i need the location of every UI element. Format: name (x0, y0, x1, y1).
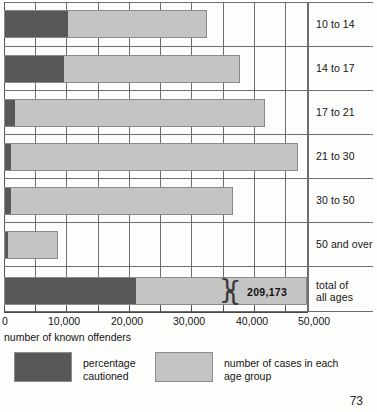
legend-label-cases: number of cases in each age group (224, 352, 338, 382)
x-axis-title: number of known offenders (4, 331, 131, 343)
legend-swatch-cases (155, 352, 213, 382)
x-tick-label-0: 0 (2, 315, 8, 327)
category-label-21-to-30: 21 to 30 (316, 150, 355, 162)
x-tick-40000 (254, 306, 255, 313)
chart-legend: percentage cautioned number of cases in … (0, 352, 377, 394)
bar-segment-cases (11, 144, 297, 170)
x-tick-35000 (223, 306, 224, 313)
bar-10-to-14 (4, 10, 207, 38)
legend-swatch-cautioned (14, 352, 72, 382)
row-separator (4, 2, 373, 3)
x-tick-label-50000: 50,000 (298, 315, 330, 327)
legend-label-cautioned: percentage cautioned (83, 352, 136, 382)
x-tick-45000 (285, 306, 286, 313)
row-separator (4, 90, 373, 91)
row-separator (4, 46, 373, 47)
bar-14-to-17 (4, 55, 240, 83)
legend-label-cautioned-line2: cautioned (83, 370, 136, 383)
bar-segment-cases (64, 56, 239, 82)
chart-area: 10 to 14 14 to 17 17 to 21 21 to 30 30 t… (4, 2, 373, 312)
x-tick-label-10000: 10,000 (48, 315, 80, 327)
legend-item-percentage-cautioned: percentage cautioned (14, 352, 136, 382)
bar-segment-cautioned (5, 11, 68, 37)
bar-segment-cases (68, 11, 206, 37)
category-label-10-to-14: 10 to 14 (316, 18, 355, 30)
axis-break-squiggle: { (225, 278, 242, 304)
x-tick-label-30000: 30,000 (173, 315, 205, 327)
bar-segment-cases (15, 100, 264, 126)
legend-item-number-of-cases: number of cases in each age group (155, 352, 338, 382)
category-label-50-and-over: 50 and over (316, 238, 373, 250)
bar-segment-cautioned (5, 56, 64, 82)
x-tick-label-40000: 40,000 (236, 315, 268, 327)
x-tick-30000 (191, 306, 192, 313)
x-tick-5000 (35, 306, 36, 313)
bar-50-and-over (4, 231, 58, 259)
x-tick-0 (4, 306, 5, 313)
label-column-divider (308, 2, 309, 312)
legend-label-cases-line1: number of cases in each (224, 357, 338, 370)
page-number: 73 (350, 394, 363, 408)
x-tick-label-20000: 20,000 (111, 315, 143, 327)
bar-segment-cases (8, 232, 57, 258)
total-value-label: 209,173 (247, 286, 287, 298)
row-separator (4, 266, 373, 267)
category-label-17-to-21: 17 to 21 (316, 106, 355, 118)
row-separator (4, 178, 373, 179)
bar-segment-cautioned (5, 100, 15, 126)
category-label-total-line1: total of (316, 279, 348, 291)
category-label-total-line2: all ages (316, 291, 353, 303)
legend-label-cases-line2: age group (224, 370, 338, 383)
bar-17-to-21 (4, 99, 265, 127)
x-tick-15000 (98, 306, 99, 313)
bar-segment-cautioned (5, 278, 136, 304)
legend-label-cautioned-line1: percentage (83, 357, 136, 370)
category-label-30-to-50: 30 to 50 (316, 194, 355, 206)
bar-21-to-30 (4, 143, 298, 171)
bar-30-to-50 (4, 187, 233, 215)
category-label-14-to-17: 14 to 17 (316, 62, 355, 74)
x-tick-25000 (160, 306, 161, 313)
bar-segment-cases (11, 188, 232, 214)
x-tick-20000 (129, 306, 130, 313)
x-tick-10000 (66, 306, 67, 313)
x-axis-line (4, 312, 308, 313)
row-separator (4, 134, 373, 135)
row-separator (4, 222, 373, 223)
